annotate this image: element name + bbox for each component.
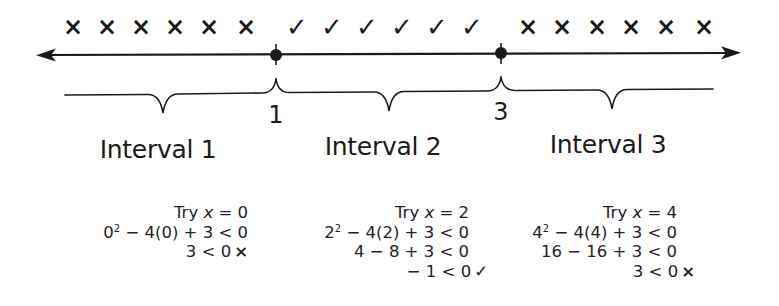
substitution-line: 42 − 4(4) + 3 < 0: [515, 223, 695, 243]
result-line: − 1 < 0✓: [292, 262, 488, 282]
x-mark-icon: ×: [621, 12, 641, 42]
x-mark-icon: ×: [552, 12, 572, 42]
x-mark-icon: ×: [97, 12, 117, 42]
base: 4: [532, 223, 543, 242]
x-mark-icon: ×: [236, 12, 256, 42]
base: 2: [324, 223, 335, 242]
test-work-interval-2: Try x = 2 22 − 4(2) + 3 < 0 4 − 8 + 3 < …: [292, 203, 480, 281]
interval-braces: [65, 77, 713, 113]
result-text: 3 < 0: [186, 242, 231, 261]
try-value-line: Try x = 2: [292, 203, 480, 223]
interval-2-label: Interval 2: [325, 131, 442, 163]
substitution-line: 22 − 4(2) + 3 < 0: [292, 223, 480, 243]
x-mark-icon: ×: [199, 12, 219, 42]
simplified-text: 4 − 8 + 3 < 0: [354, 242, 469, 261]
x-mark-icon: ×: [694, 12, 714, 42]
brace-interval-2: [276, 77, 501, 111]
simplified-text: 16 − 16 + 3 < 0: [541, 242, 677, 261]
interval-3-label: Interval 3: [550, 129, 667, 161]
simplify-line: 4 − 8 + 3 < 0: [292, 242, 480, 262]
brace-interval-3: [501, 77, 713, 109]
variable: x: [632, 203, 642, 222]
try-suffix: = 0: [213, 203, 248, 222]
result-line: 3 < 0×: [515, 262, 695, 282]
number-line-axis: [44, 53, 732, 55]
check-mark-icon: ✓: [426, 12, 448, 42]
result-text: − 1 < 0: [407, 262, 471, 281]
x-mark-icon: ×: [131, 12, 151, 42]
base: 0: [103, 223, 114, 242]
x-mark-icon: ×: [63, 12, 83, 42]
x-mark-icon: ×: [518, 12, 538, 42]
interval-1-label: Interval 1: [100, 134, 217, 166]
try-value-line: Try x = 4: [515, 203, 695, 223]
result-line: 3 < 0×: [60, 242, 248, 262]
point-3-dot: [495, 47, 507, 59]
try-prefix: Try: [603, 203, 632, 222]
x-mark-icon: ×: [587, 12, 607, 42]
substitution-line: 02 − 4(0) + 3 < 0: [60, 223, 248, 243]
test-work-interval-3: Try x = 4 42 − 4(4) + 3 < 0 16 − 16 + 3 …: [515, 203, 695, 281]
check-mark-icon: ✓: [356, 12, 378, 42]
try-suffix: = 4: [642, 203, 677, 222]
check-mark-icon: ✓: [474, 262, 488, 281]
try-value-line: Try x = 0: [60, 203, 248, 223]
check-mark-icon: ✓: [321, 12, 343, 42]
expression-rest: − 4(2) + 3 < 0: [341, 223, 469, 242]
x-mark-icon: ×: [681, 262, 695, 281]
expression-rest: − 4(0) + 3 < 0: [120, 223, 248, 242]
check-mark-icon: ✓: [461, 12, 483, 42]
x-mark-icon: ×: [656, 12, 676, 42]
number-line-diagram: × × × × × × ✓ ✓ ✓ ✓ ✓ ✓ × × × × × × 1 3 …: [0, 0, 779, 306]
try-prefix: Try: [395, 203, 424, 222]
try-prefix: Try: [174, 203, 203, 222]
test-work-interval-1: Try x = 0 02 − 4(0) + 3 < 0 3 < 0×: [60, 203, 248, 262]
point-label-1: 1: [268, 101, 283, 129]
result-text: 3 < 0: [633, 262, 678, 281]
x-mark-icon: ×: [165, 12, 185, 42]
point-label-3: 3: [493, 98, 508, 126]
variable: x: [203, 203, 213, 222]
point-1-dot: [270, 49, 282, 61]
variable: x: [424, 203, 434, 222]
try-suffix: = 2: [434, 203, 469, 222]
x-mark-icon: ×: [234, 242, 248, 261]
check-mark-icon: ✓: [286, 12, 308, 42]
brace-interval-1: [65, 79, 276, 113]
simplify-line: 16 − 16 + 3 < 0: [515, 242, 695, 262]
expression-rest: − 4(4) + 3 < 0: [549, 223, 677, 242]
check-mark-icon: ✓: [391, 12, 413, 42]
